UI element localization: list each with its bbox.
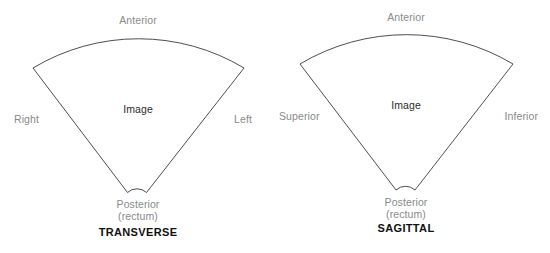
sagittal-label-image: Image	[391, 99, 421, 112]
transverse-label-right: Right	[14, 113, 39, 126]
transverse-label-anterior: Anterior	[119, 14, 157, 27]
transverse-label-left: Left	[234, 113, 252, 126]
sector-shapes	[0, 0, 550, 253]
sagittal-label-superior: Superior	[279, 110, 320, 123]
orientation-diagram: Anterior Right Left Image Posterior (rec…	[0, 0, 550, 253]
sagittal-panel-title: SAGITTAL	[378, 222, 435, 234]
transverse-panel-title: TRANSVERSE	[99, 226, 178, 238]
transverse-label-rectum: (rectum)	[118, 210, 158, 223]
sagittal-label-inferior: Inferior	[505, 110, 538, 123]
transverse-label-image: Image	[123, 103, 153, 116]
sagittal-label-rectum: (rectum)	[386, 208, 426, 221]
sagittal-sector-outline	[300, 35, 513, 190]
sagittal-label-anterior: Anterior	[387, 11, 425, 24]
